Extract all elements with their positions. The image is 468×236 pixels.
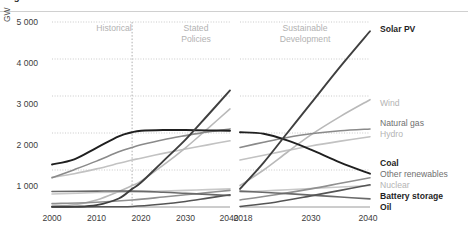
band-label-stated-policies-line2: Policies [181, 34, 211, 44]
y-tick-2000: 2 000 [0, 140, 38, 150]
figure-title: Figure [5, 0, 35, 2]
band-label-historical: Historical [96, 23, 131, 34]
y-tick-3000: 3 000 [0, 99, 38, 109]
series-line-battery-storage [52, 195, 230, 207]
title-divider-rule [0, 11, 468, 12]
plot-area-right [240, 18, 370, 211]
band-label-sustainable-development-line1: Sustainable [283, 23, 328, 33]
plot-panel-stated-policies [52, 18, 230, 211]
legend-label-solar-pv: Solar PV [380, 24, 415, 34]
series-line-coal [52, 130, 230, 164]
x-tick-right-2040: 2040 [358, 213, 377, 223]
legend-label-battery-storage: Battery storage [380, 191, 443, 201]
y-tick-5000: 5 000 [0, 17, 38, 27]
legend-label-oil: Oil [380, 202, 391, 212]
series-line-hydro [240, 137, 370, 160]
band-label-sustainable-development-line2: Development [280, 34, 331, 44]
series-line-hydro [52, 141, 230, 178]
legend-label-natural-gas: Natural gas [380, 118, 424, 128]
x-tick-left-2000: 2000 [42, 213, 61, 223]
x-tick-right-2030: 2030 [301, 213, 320, 223]
plot-area-left [52, 18, 230, 211]
legend-label-hydro: Hydro [380, 129, 403, 139]
plot-panel-sustainable-development [240, 18, 370, 211]
x-tick-left-2030: 2030 [176, 213, 195, 223]
y-tick-4000: 4 000 [0, 58, 38, 68]
x-tick-left-2020: 2020 [131, 213, 150, 223]
chart-figure: Figure GW 5 000 4 000 3 000 2 000 1 000 … [0, 0, 468, 236]
legend-label-other-renewables: Other renewables [380, 169, 448, 179]
legend-label-nuclear: Nuclear [380, 180, 410, 190]
x-tick-right-2018: 2018 [233, 213, 252, 223]
band-label-stated-policies-line1: Stated [184, 23, 209, 33]
series-line-natural-gas [52, 129, 230, 178]
y-tick-1000: 1 000 [0, 181, 38, 191]
x-tick-left-2010: 2010 [87, 213, 106, 223]
legend-label-coal: Coal [380, 158, 399, 168]
legend-label-wind: Wind [380, 98, 400, 108]
figure-title-strip: Figure [0, 0, 468, 11]
